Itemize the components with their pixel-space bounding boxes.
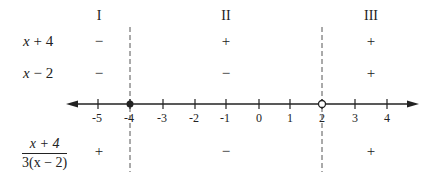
tick-label: -2 [189, 111, 199, 126]
open-point-icon [319, 101, 326, 108]
row-var: x [23, 65, 30, 81]
region-label-3: III [364, 8, 378, 24]
sign-row1-region2: + [222, 33, 230, 50]
quotient-fraction: x + 4 3(x − 2) [22, 136, 67, 171]
row-op: + 4 [30, 33, 53, 49]
tick-label: -1 [220, 111, 230, 126]
row-op: − 2 [30, 65, 53, 81]
fraction-denominator: 3(x − 2) [22, 154, 67, 171]
tick-label: 2 [319, 111, 325, 126]
row-var: x [23, 33, 30, 49]
sign-quotient-region2: − [222, 143, 230, 160]
tick-label: 1 [287, 111, 293, 126]
left-arrow-icon [66, 101, 78, 108]
tick-label: -5 [92, 111, 102, 126]
tick-label: 0 [256, 111, 262, 126]
tick-label: -3 [157, 111, 167, 126]
sign-row2-region3: + [367, 65, 375, 82]
sign-quotient-region3: + [367, 143, 375, 160]
row-label-x-minus-2: x − 2 [23, 65, 53, 82]
sign-quotient-region1: + [95, 143, 103, 160]
sign-row2-region2: − [222, 65, 230, 82]
sign-row1-region3: + [367, 33, 375, 50]
right-arrow-icon [407, 101, 419, 108]
tick-label: 4 [384, 111, 390, 126]
tick-label: 3 [352, 111, 358, 126]
sign-row1-region1: − [95, 33, 103, 50]
sign-row2-region1: − [95, 65, 103, 82]
region-label-2: II [221, 8, 230, 24]
filled-point-icon [127, 101, 134, 108]
region-label-1: I [97, 8, 102, 24]
fraction-numerator: x + 4 [22, 136, 67, 154]
row-label-x-plus-4: x + 4 [23, 33, 53, 50]
tick-label: -4 [124, 111, 134, 126]
